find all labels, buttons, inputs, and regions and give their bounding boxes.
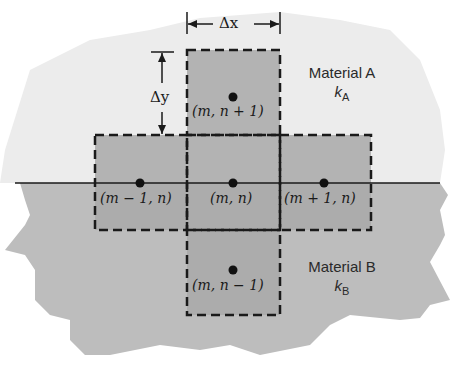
dy-label: Δy (150, 88, 169, 106)
material-b-conductivity: kB (297, 277, 387, 297)
node-center (229, 179, 238, 188)
node-left (136, 179, 145, 188)
node-bottom (229, 266, 238, 275)
node-label-right: (m + 1, n) (284, 190, 356, 206)
material-b-label: Material B kB (297, 258, 387, 297)
material-a-label: Material A kA (297, 64, 387, 103)
node-label-top: (m, n + 1) (192, 103, 264, 119)
diagram-canvas (0, 0, 467, 367)
node-right (320, 179, 329, 188)
material-a-conductivity: kA (297, 83, 387, 103)
dx-label: Δx (219, 14, 238, 32)
node-top (229, 93, 238, 102)
material-a-name: Material A (297, 64, 387, 81)
node-label-bottom: (m, n − 1) (192, 277, 264, 293)
node-label-left: (m − 1, n) (100, 190, 172, 206)
node-label-center: (m, n) (210, 190, 252, 206)
material-b-name: Material B (297, 258, 387, 275)
